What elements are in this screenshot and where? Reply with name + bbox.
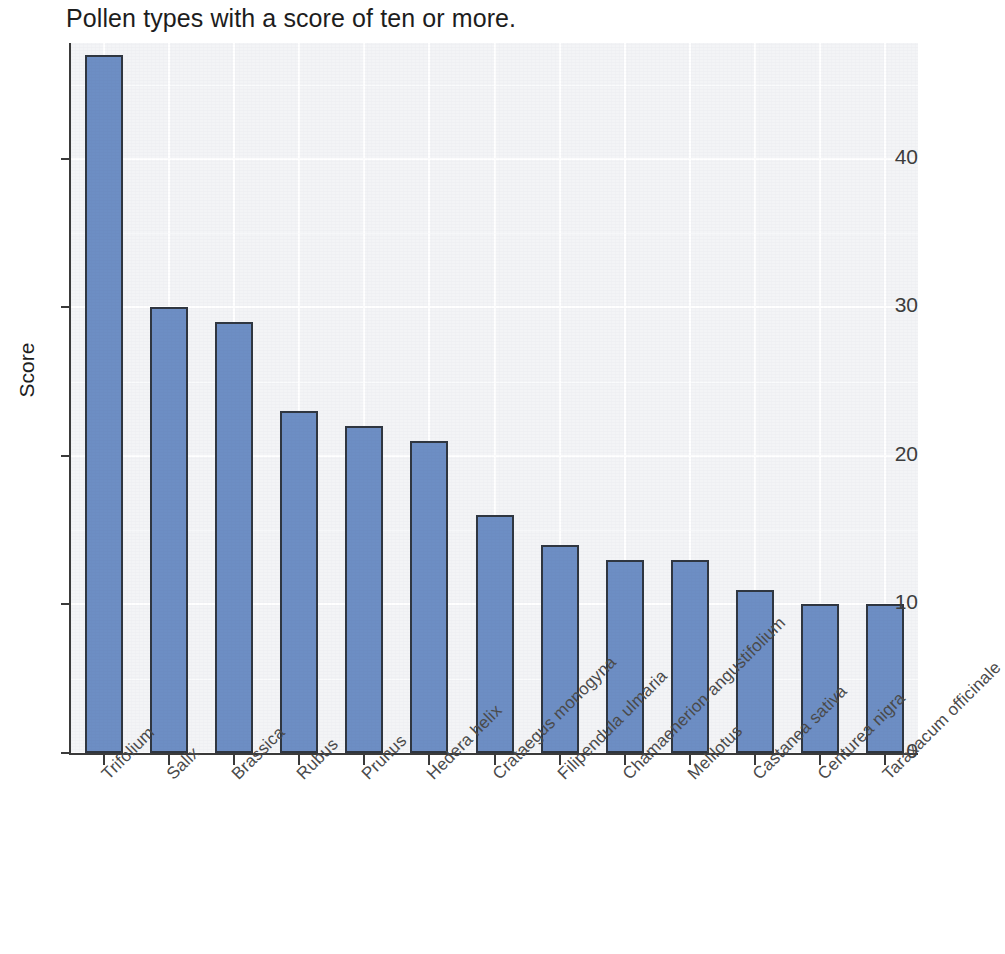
y-axis-line — [69, 43, 71, 755]
y-tick-label: 10 — [862, 590, 918, 614]
bar — [150, 307, 188, 753]
bar — [280, 411, 318, 753]
y-tick-label: 40 — [862, 145, 918, 169]
y-tick-mark — [61, 752, 70, 754]
bar — [345, 426, 383, 753]
chart-title: Pollen types with a score of ten or more… — [66, 4, 516, 33]
y-axis-title: Score — [15, 325, 39, 415]
y-tick-mark — [61, 603, 70, 605]
y-tick-mark — [61, 455, 70, 457]
y-tick-mark — [61, 158, 70, 160]
plot-area — [71, 43, 918, 753]
y-tick-label: 30 — [862, 293, 918, 317]
bar — [410, 441, 448, 753]
bar — [215, 322, 253, 753]
bar — [85, 55, 123, 753]
y-tick-label: 20 — [862, 442, 918, 466]
y-tick-mark — [61, 306, 70, 308]
